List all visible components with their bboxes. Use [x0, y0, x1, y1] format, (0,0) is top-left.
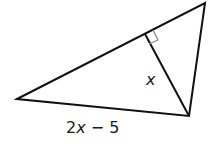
base-label-coef: 2 — [66, 118, 76, 137]
base-label-rest: − 5 — [86, 118, 120, 137]
altitude-label: x — [145, 70, 156, 89]
base-label-var: x — [75, 118, 86, 137]
triangle — [17, 3, 205, 116]
triangle-diagram: x 2x − 5 — [0, 0, 213, 146]
base-label: 2x − 5 — [66, 118, 119, 137]
